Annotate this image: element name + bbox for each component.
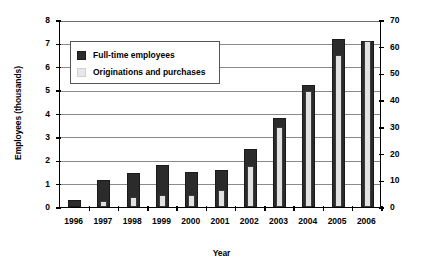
x-axis-tickmark [352,206,353,211]
bar-originations-and-purchases [100,201,107,207]
y-axis-right-tick-label: 40 [390,95,399,105]
bar-group [361,20,374,207]
y-axis-right-tick-label: 0 [390,202,395,212]
y-axis-left-tick-label: 4 [0,109,50,119]
y-axis-left-tickmark [56,44,61,45]
x-axis-category-label: 2006 [352,216,381,226]
y-axis-right-tickmark [379,74,384,75]
bar-chart: Employees (thousands) Originations and p… [0,0,443,274]
y-axis-left-tickmark [56,137,61,138]
x-axis-category-label: 1997 [88,216,117,226]
x-axis-tickmark [206,206,207,211]
y-axis-left-tick-label: 1 [0,179,50,189]
y-axis-right-tickmark [379,20,384,21]
y-axis-left-tick-label: 8 [0,15,50,25]
bar-originations-and-purchases [364,41,371,207]
x-axis-tickmark [323,206,324,211]
legend-label: Originations and purchases [93,67,205,77]
x-axis-category-label: 2002 [235,216,264,226]
y-axis-right-tick-label: 70 [390,15,399,25]
x-axis-category-label: 2000 [176,216,205,226]
y-axis-right-tick-label: 30 [390,122,399,132]
x-axis-tickmark [293,206,294,211]
y-axis-left-tick-label: 7 [0,38,50,48]
x-axis-tickmark [235,206,236,211]
bar-originations-and-purchases [276,127,283,207]
legend-swatch-light-icon [77,68,86,77]
x-axis-tickmark [147,206,148,211]
y-axis-left-tick-label: 6 [0,62,50,72]
x-axis-tickmark [264,206,265,211]
bar-group [332,20,345,207]
x-axis-category-label: 2005 [322,216,351,226]
y-axis-right-tickmark [379,127,384,128]
y-axis-right-tick-label: 60 [390,42,399,52]
y-axis-left-tickmark [56,90,61,91]
y-axis-right-tick-label: 10 [390,175,399,185]
x-axis-category-label: 1999 [147,216,176,226]
bar-originations-and-purchases [335,55,342,207]
x-axis-category-label: 2003 [264,216,293,226]
y-axis-left-tickmark [56,161,61,162]
y-axis-left-tickmark [56,114,61,115]
bar-group [302,20,315,207]
bar-originations-and-purchases [188,195,195,207]
legend-item-originations-and-purchases: Originations and purchases [77,64,213,80]
bar-originations-and-purchases [305,91,312,207]
bar-full-time-employees [68,200,81,207]
x-axis-category-label: 1998 [118,216,147,226]
y-axis-left-tick-label: 5 [0,85,50,95]
y-axis-right-tickmark [379,181,384,182]
bar-originations-and-purchases [130,197,137,207]
y-axis-right-tickmark [379,207,384,208]
y-axis-left-tickmark [56,207,61,208]
x-axis-title: Year [0,248,443,258]
bar-group [244,20,257,207]
y-axis-left-tickmark [56,20,61,21]
y-axis-left-tick-label: 0 [0,202,50,212]
y-axis-right-tickmark [379,47,384,48]
x-axis-tickmark [89,206,90,211]
bar-group [273,20,286,207]
bar-originations-and-purchases [159,195,166,207]
legend-swatch-dark-icon [77,51,86,60]
y-axis-right-tick-label: 20 [390,149,399,159]
y-axis-right-tickmark [379,100,384,101]
x-axis-category-label: 2001 [205,216,234,226]
bar-originations-and-purchases [247,166,254,207]
chart-legend: Full-time employees Originations and pur… [70,41,220,84]
legend-label: Full-time employees [93,50,175,60]
y-axis-left-tick-label: 3 [0,132,50,142]
x-axis-category-label: 2004 [293,216,322,226]
y-axis-left-tickmark [56,184,61,185]
y-axis-left-tick-label: 2 [0,155,50,165]
y-axis-left-tickmark [56,67,61,68]
legend-item-full-time-employees: Full-time employees [77,47,213,63]
y-axis-right-tick-label: 50 [390,68,399,78]
y-axis-right-tickmark [379,154,384,155]
x-axis-tickmark [118,206,119,211]
x-axis-category-label: 1996 [59,216,88,226]
bar-originations-and-purchases [218,190,225,207]
x-axis-tickmark [176,206,177,211]
